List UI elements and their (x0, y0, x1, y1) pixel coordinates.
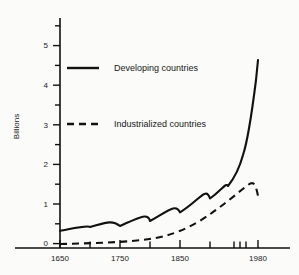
y-tick-label-0: 0 (34, 239, 48, 248)
x-tick-label-1850: 1850 (165, 254, 195, 263)
legend-label-developing-countries: Developing countries (114, 63, 198, 73)
y-axis-title: Billions (12, 102, 21, 152)
legend-label-industrialized-countries: Industrialized countries (114, 119, 206, 129)
y-tick-label-1: 1 (34, 200, 48, 209)
x-tick-label-1750: 1750 (105, 254, 135, 263)
y-tick-label-5: 5 (34, 41, 48, 50)
x-tick-label-1650: 1650 (45, 254, 75, 263)
y-tick-label-3: 3 (34, 121, 48, 130)
solid-line-swatch (66, 63, 100, 73)
population-growth-chart: Billions 0 1 2 3 4 5 1650 1750 1850 1980… (0, 0, 299, 275)
legend-item-industrialized-countries: Industrialized countries (66, 118, 206, 130)
y-tick-label-4: 4 (34, 81, 48, 90)
y-tick-label-2: 2 (34, 160, 48, 169)
series-line-industrialized (60, 183, 258, 244)
legend-item-developing-countries: Developing countries (66, 62, 198, 74)
series-line-developing (60, 60, 258, 231)
dashed-line-swatch (66, 119, 100, 129)
x-tick-label-1980: 1980 (243, 254, 273, 263)
